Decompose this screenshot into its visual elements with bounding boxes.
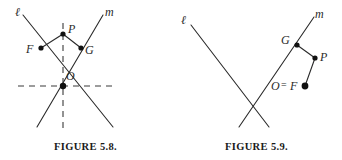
point-P-dot [312,55,317,60]
line-l-stroke [191,25,269,127]
label-equals-sign: = [281,79,287,90]
segment-O-P-stroke [305,58,315,86]
label-point-F: F [289,79,298,93]
label-point-F: F [25,42,34,56]
figure-5-9-panel: ℓ m G P O = F FIGURE 5.9. [171,0,342,160]
point-G-dot [78,45,83,50]
label-point-O: O [271,79,280,93]
figure-pair-container: ℓ m P F G O FIGURE 5.8. ℓ m [0,0,342,160]
figure-5-9-caption: FIGURE 5.9. [171,141,342,152]
figure-5-8-drawing: ℓ m P F G O [0,0,171,140]
segment-P-G-stroke [63,34,81,48]
point-G-dot [294,42,299,47]
label-point-O: O [66,69,75,83]
label-line-l: ℓ [15,5,20,19]
segment-G-P-stroke [297,45,315,58]
label-line-l: ℓ [181,13,186,27]
label-line-m: m [315,7,324,21]
line-m-stroke [239,17,314,127]
label-line-m: m [105,5,114,19]
label-point-G: G [281,33,290,47]
label-point-G: G [85,43,94,57]
figure-5-8-caption: FIGURE 5.8. [0,141,171,152]
figure-5-8-panel: ℓ m P F G O FIGURE 5.8. [0,0,171,160]
point-O-dot [60,83,66,89]
point-O-equals-F-dot [302,83,309,90]
figure-5-9-drawing: ℓ m G P O = F [171,0,342,140]
point-P-dot [60,31,65,36]
label-point-P: P [319,50,328,64]
point-F-dot [38,45,43,50]
label-point-P: P [67,22,76,36]
